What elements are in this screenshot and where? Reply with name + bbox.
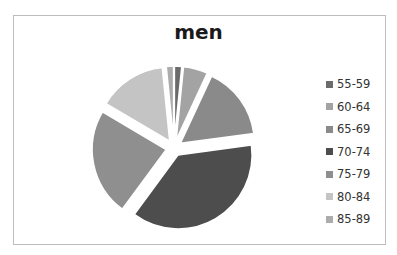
legend-label: 75-79 [337,167,370,181]
legend-swatch [326,171,333,178]
legend-item: 75-79 [326,163,370,186]
legend-label: 70-74 [337,145,370,159]
legend-swatch [326,103,333,110]
legend-label: 60-64 [337,100,370,114]
legend-swatch [326,216,333,223]
legend-label: 65-69 [337,122,370,136]
legend-label: 85-89 [337,212,370,226]
legend-item: 55-59 [326,73,370,96]
legend-swatch [326,193,333,200]
legend-label: 80-84 [337,190,370,204]
legend-item: 80-84 [326,186,370,209]
legend: 55-59 60-64 65-69 70-74 75-79 80-84 85-8… [326,73,370,231]
legend-swatch [326,81,333,88]
legend-item: 70-74 [326,141,370,164]
legend-item: 60-64 [326,96,370,119]
legend-label: 55-59 [337,77,370,91]
legend-swatch [326,148,333,155]
legend-item: 65-69 [326,118,370,141]
legend-item: 85-89 [326,208,370,231]
legend-swatch [326,126,333,133]
